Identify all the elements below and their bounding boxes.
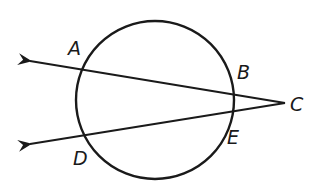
- secant-line-ced: [30, 103, 285, 144]
- label-e: E: [227, 126, 239, 148]
- circle-secant-diagram: A B C D E: [0, 0, 316, 192]
- label-b: B: [237, 61, 250, 83]
- circle: [76, 21, 234, 179]
- label-d: D: [73, 147, 88, 169]
- label-a: A: [66, 37, 81, 59]
- label-c: C: [290, 93, 304, 115]
